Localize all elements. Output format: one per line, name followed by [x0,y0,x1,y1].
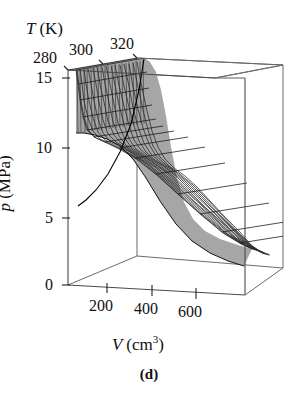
volume-unit-close: ) [158,335,164,354]
temperature-unit: (K) [39,19,63,38]
temperature-tick-280: 280 [33,50,57,66]
pressure-tick-10: 10 [36,140,52,156]
volume-tick-600: 600 [178,304,202,320]
volume-axis-line [68,285,245,295]
volume-unit-base: (cm [126,335,152,354]
pressure-tick-5: 5 [45,210,53,226]
temperature-tick-300: 300 [69,42,93,58]
temperature-tick-320: 320 [110,36,134,52]
pressure-axis-ticks [62,78,70,285]
temperature-axis-title: T (K) [26,20,63,37]
pressure-tick-15: 15 [36,70,52,86]
temperature-symbol: T [26,19,35,38]
pressure-surface-mesh [68,58,298,266]
pressure-symbol: p [0,203,14,212]
volume-tick-400: 400 [134,301,158,317]
figure-panel-d: T (K) p (MPa) V (cm3) 280 300 320 15 10 … [0,0,298,396]
volume-symbol: V [112,335,122,354]
volume-axis-title: V (cm3) [112,334,164,353]
pressure-axis-title: p (MPa) [0,155,13,211]
pressure-tick-0: 0 [45,277,53,293]
pressure-unit: (MPa) [0,155,14,198]
volume-tick-200: 200 [89,298,113,314]
panel-label: (d) [0,366,298,383]
